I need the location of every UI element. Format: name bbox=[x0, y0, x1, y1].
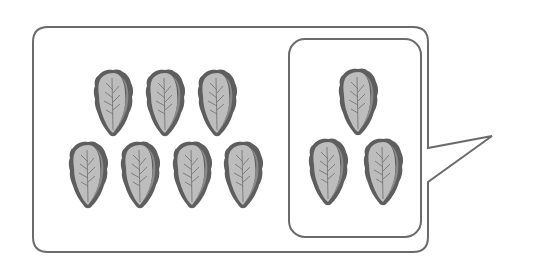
inner-group-frame bbox=[289, 39, 421, 237]
speech-bubble-outline bbox=[33, 27, 492, 252]
speech-bubble-diagram bbox=[0, 0, 543, 264]
